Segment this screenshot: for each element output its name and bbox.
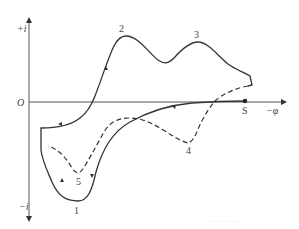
start-point-s <box>243 99 247 103</box>
origin-label: O <box>17 98 24 108</box>
arrow-marker-solid-4 <box>60 178 64 182</box>
start-point-label: S <box>242 106 248 116</box>
y-axis-positive-label: +i <box>17 24 27 34</box>
dashed-curve <box>48 86 248 173</box>
y-axis-negative-label: −i <box>19 202 29 212</box>
peak-label-5: 5 <box>76 177 81 187</box>
peak-label-1: 1 <box>74 206 79 216</box>
peak-label-2: 2 <box>119 24 124 34</box>
x-axis-label: −φ <box>266 106 278 116</box>
solid-curve <box>41 36 252 201</box>
peak-label-4: 4 <box>186 146 191 156</box>
arrow-marker-solid-3 <box>90 174 94 178</box>
peak-label-3: 3 <box>194 30 199 40</box>
arrow-marker-solid-2 <box>58 122 62 126</box>
cyclic-voltammogram-diagram <box>0 0 299 229</box>
footer-faint-text: ·· ·· · ··· ·· <box>210 219 240 226</box>
